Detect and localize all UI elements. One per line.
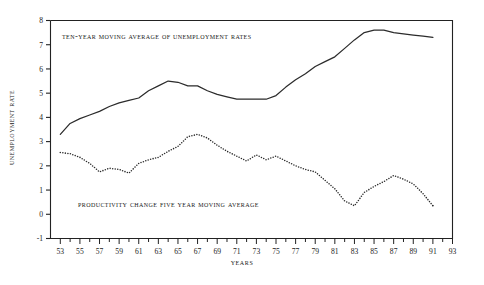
svg-text:53: 53 (57, 247, 65, 256)
svg-text:93: 93 (449, 247, 457, 256)
svg-text:5: 5 (39, 89, 43, 98)
svg-text:0: 0 (39, 210, 43, 219)
svg-text:79: 79 (311, 247, 319, 256)
series-label-unemployment: Ten-Year Moving Average of Unemployment … (62, 31, 251, 41)
svg-text:57: 57 (96, 247, 104, 256)
svg-text:85: 85 (370, 247, 378, 256)
svg-text:7: 7 (39, 41, 43, 50)
svg-text:69: 69 (213, 247, 221, 256)
axis-ticks (46, 21, 453, 245)
axis-tick-labels: -101234567853555759616365676971737577798… (37, 16, 457, 255)
series-label-productivity: Productivity Change Five Year Moving Ave… (78, 199, 259, 209)
series-line-productivity (60, 134, 434, 207)
svg-text:73: 73 (253, 247, 261, 256)
svg-text:87: 87 (390, 247, 398, 256)
svg-text:71: 71 (233, 247, 241, 256)
x-axis-label: Years (0, 258, 484, 267)
svg-text:77: 77 (292, 247, 300, 256)
y-axis-label: Unemployment Rate (2, 52, 20, 202)
svg-text:6: 6 (39, 65, 43, 74)
svg-text:8: 8 (39, 16, 43, 25)
svg-text:4: 4 (39, 113, 43, 122)
svg-text:67: 67 (194, 247, 202, 256)
svg-text:83: 83 (351, 247, 359, 256)
plot-canvas: -101234567853555759616365676971737577798… (0, 0, 484, 285)
svg-text:89: 89 (409, 247, 417, 256)
svg-text:65: 65 (174, 247, 182, 256)
svg-text:63: 63 (155, 247, 163, 256)
svg-text:75: 75 (272, 247, 280, 256)
unemployment-productivity-chart: Unemployment Rate Years Ten-Year Moving … (0, 0, 484, 285)
svg-text:91: 91 (429, 247, 437, 256)
svg-text:3: 3 (39, 137, 43, 146)
svg-text:59: 59 (115, 247, 123, 256)
svg-text:61: 61 (135, 247, 143, 256)
svg-text:81: 81 (331, 247, 339, 256)
svg-text:55: 55 (76, 247, 84, 256)
svg-text:2: 2 (39, 162, 43, 171)
svg-text:1: 1 (39, 186, 43, 195)
series-line-unemployment (60, 30, 433, 134)
svg-text:-1: -1 (37, 234, 44, 243)
